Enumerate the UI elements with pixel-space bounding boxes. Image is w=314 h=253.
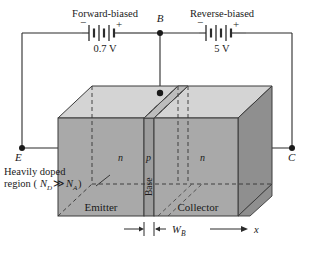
- region-label-n-collector: n: [200, 152, 205, 163]
- battery1-voltage-label: 0.7 V: [93, 43, 117, 54]
- battery2-voltage-label: 5 V: [214, 43, 230, 54]
- dim-arrowhead-left: [139, 227, 144, 232]
- reverse-biased-title: Reverse-biased: [190, 8, 255, 19]
- base-width-subscript: B: [181, 229, 186, 238]
- battery1-plus-sign: +: [116, 18, 122, 30]
- figure-container: − + Forward-biased 0.7 V − + Reverse-bia…: [0, 0, 314, 253]
- doping-prefix: region (: [4, 178, 37, 190]
- battery2-plus-sign: +: [233, 18, 239, 30]
- x-axis-label: x: [253, 224, 259, 235]
- npn-transistor-bias-diagram: − + Forward-biased 0.7 V − + Reverse-bia…: [0, 0, 314, 253]
- base-terminal-node[interactable]: [157, 30, 163, 36]
- dim-arrowhead-right: [155, 227, 160, 232]
- collector-label: Collector: [178, 201, 219, 213]
- base-front-face: [144, 118, 154, 216]
- collector-terminal-label: C: [288, 151, 296, 163]
- doping-nd-subscript: D: [46, 184, 52, 192]
- doping-suffix: ): [78, 178, 82, 190]
- emitter-terminal-label: E: [14, 151, 22, 163]
- forward-biased-title: Forward-biased: [72, 8, 139, 19]
- emitter-label: Emitter: [85, 201, 118, 213]
- base-vertical-label: Base: [144, 178, 154, 196]
- region-label-p-base: p: [145, 152, 151, 163]
- region-label-n-emitter: n: [118, 152, 123, 163]
- x-axis-arrowhead: [241, 226, 248, 232]
- doping-annotation-line1: Heavily doped: [4, 166, 66, 177]
- base-terminal-label: B: [157, 12, 164, 24]
- base-contact-node[interactable]: [157, 90, 163, 96]
- doping-much-greater-sign: ≫: [53, 178, 65, 189]
